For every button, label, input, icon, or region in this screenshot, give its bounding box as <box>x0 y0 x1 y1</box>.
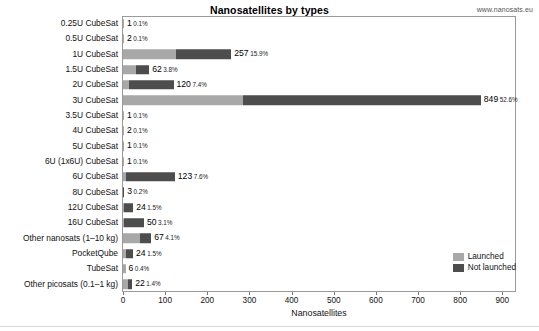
legend-label: Not launched <box>468 263 516 272</box>
bar-segment-launched <box>123 157 124 167</box>
category-label: 6U (1x6U) CubeSat <box>0 154 118 169</box>
stacked-bar: 623.8% <box>123 65 178 75</box>
bar-percent-label: 1.5% <box>147 249 161 259</box>
bar-segment-launched <box>123 142 124 152</box>
bar-value-label: 123 <box>178 172 192 182</box>
bar-row: 8U CubeSat30.2% <box>0 185 539 200</box>
x-axis-tick <box>502 292 503 295</box>
bar-segment-not-launched <box>126 172 175 182</box>
category-label: 6U CubeSat <box>0 169 118 184</box>
bar-percent-label: 7.4% <box>192 80 206 90</box>
bar-percent-label: 15.9% <box>250 50 268 60</box>
bar-value-label: 67 <box>154 234 164 244</box>
bar-segment-launched <box>123 234 140 244</box>
bar-segment-not-launched <box>124 218 144 228</box>
stacked-bar: 20.1% <box>123 126 148 136</box>
x-axis-tick <box>418 292 419 295</box>
category-label: 3U CubeSat <box>0 93 118 108</box>
bottom-divider <box>0 326 539 327</box>
bar-row: 4U CubeSat20.1% <box>0 123 539 138</box>
category-label: TubeSat <box>0 261 118 276</box>
stacked-bar: 84952.6% <box>123 96 518 106</box>
bar-percent-label: 0.1% <box>133 111 147 121</box>
x-axis-tick-label: 500 <box>327 296 341 305</box>
bar-percent-label: 0.2% <box>134 188 148 198</box>
bar-row: 1U CubeSat25715.9% <box>0 47 539 62</box>
bar-value-label: 2 <box>127 34 132 44</box>
category-label: 16U CubeSat <box>0 215 118 230</box>
bar-percent-label: 0.1% <box>133 157 147 167</box>
bar-value-label: 120 <box>177 80 191 90</box>
bar-percent-label: 3.1% <box>158 218 172 228</box>
x-axis-tick-label: 800 <box>453 296 467 305</box>
category-label: 0.25U CubeSat <box>0 16 118 31</box>
x-axis-tick-label: 0 <box>121 296 126 305</box>
category-label: 3.5U CubeSat <box>0 108 118 123</box>
x-axis-tick <box>249 292 250 295</box>
x-axis-tick <box>376 292 377 295</box>
bar-segment-launched <box>123 34 124 44</box>
bar-value-label: 849 <box>484 96 498 106</box>
category-label: 0.5U CubeSat <box>0 31 118 46</box>
bar-percent-label: 52.6% <box>500 96 518 106</box>
bar-value-label: 1 <box>127 19 132 29</box>
bar-value-label: 6 <box>129 264 134 274</box>
x-axis-tick-label: 700 <box>411 296 425 305</box>
bar-value-label: 22 <box>135 280 145 290</box>
bar-row: 3.5U CubeSat10.1% <box>0 108 539 123</box>
bar-value-label: 1 <box>127 157 132 167</box>
bar-row: Other picosats (0.1–1 kg)221.4% <box>0 277 539 292</box>
bar-segment-not-launched <box>136 65 149 75</box>
bar-percent-label: 0.1% <box>133 19 147 29</box>
bar-value-label: 257 <box>234 50 248 60</box>
category-label: Other nanosats (1–10 kg) <box>0 231 118 246</box>
bar-percent-label: 7.6% <box>194 172 208 182</box>
bar-row: Other nanosats (1–10 kg)674.1% <box>0 231 539 246</box>
bar-segment-not-launched <box>123 188 124 198</box>
bar-row: 0.5U CubeSat20.1% <box>0 31 539 46</box>
legend-item-launched[interactable]: Launched <box>453 252 516 261</box>
category-label: 1U CubeSat <box>0 47 118 62</box>
bar-segment-not-launched <box>126 249 133 259</box>
x-axis-tick <box>334 292 335 295</box>
bar-row: 0.25U CubeSat10.1% <box>0 16 539 31</box>
stacked-bar: 674.1% <box>123 234 180 244</box>
stacked-bar: 241.5% <box>123 203 162 213</box>
bar-row: 16U CubeSat503.1% <box>0 215 539 230</box>
bar-row: 1.5U CubeSat623.8% <box>0 62 539 77</box>
x-axis-label: Nanosatellites <box>122 308 516 318</box>
stacked-bar: 241.5% <box>123 249 162 259</box>
stacked-bar: 30.2% <box>123 188 148 198</box>
x-axis-tick-label: 200 <box>200 296 214 305</box>
legend-swatch-icon <box>453 253 464 261</box>
category-label: 5U CubeSat <box>0 139 118 154</box>
stacked-bar: 60.4% <box>123 264 149 274</box>
bar-row: 5U CubeSat10.1% <box>0 139 539 154</box>
bar-percent-label: 1.4% <box>146 280 160 290</box>
stacked-bar: 221.4% <box>123 280 161 290</box>
bar-value-label: 2 <box>127 126 132 136</box>
bar-segment-launched <box>123 65 136 75</box>
bar-value-label: 24 <box>136 249 146 259</box>
bar-segment-launched <box>123 19 124 29</box>
stacked-bar: 10.1% <box>123 142 148 152</box>
legend-item-not_launched[interactable]: Not launched <box>453 263 516 272</box>
bar-segment-not-launched <box>140 234 151 244</box>
x-axis-tick-label: 300 <box>243 296 257 305</box>
category-label: PocketQube <box>0 246 118 261</box>
x-axis-tick <box>292 292 293 295</box>
x-axis-tick <box>123 292 124 295</box>
category-label: 1.5U CubeSat <box>0 62 118 77</box>
bar-row: 6U (1x6U) CubeSat10.1% <box>0 154 539 169</box>
bar-segment-not-launched <box>128 280 132 290</box>
legend: LaunchedNot launched <box>453 252 516 272</box>
x-axis-tick-label: 100 <box>158 296 172 305</box>
x-axis-tick-label: 900 <box>496 296 510 305</box>
bar-segment-launched <box>123 264 126 274</box>
category-label: Other picosats (0.1–1 kg) <box>0 277 118 292</box>
bar-percent-label: 1.5% <box>147 203 161 213</box>
bar-row: 12U CubeSat241.5% <box>0 200 539 215</box>
stacked-bar: 1237.6% <box>123 172 208 182</box>
chart-title: Nanosatellites by types <box>0 4 539 16</box>
bar-percent-label: 0.1% <box>133 142 147 152</box>
